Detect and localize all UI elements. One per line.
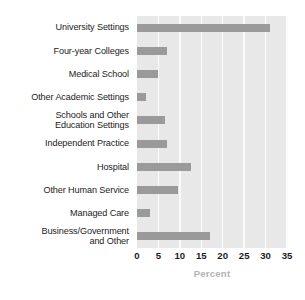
category-label: University Settings — [0, 22, 129, 32]
x-tick-label: 10 — [175, 250, 186, 261]
bar — [137, 116, 165, 124]
category-label: Medical School — [0, 69, 129, 79]
bar — [137, 140, 167, 148]
category-label: Hospital — [0, 162, 129, 172]
plot-area — [137, 16, 287, 248]
x-tick-label: 20 — [217, 250, 228, 261]
bar — [137, 70, 158, 78]
x-tick-label: 5 — [156, 250, 161, 261]
x-tick-label: 15 — [196, 250, 207, 261]
category-label: Independent Practice — [0, 138, 129, 148]
category-label: Schools and Other Education Settings — [0, 110, 129, 131]
category-label: Four-year Colleges — [0, 46, 129, 56]
bar — [137, 47, 167, 55]
x-axis-ticks: 05101520253035 — [137, 250, 287, 264]
bar — [137, 232, 210, 240]
bar — [137, 186, 178, 194]
category-label: Other Academic Settings — [0, 92, 129, 102]
bar — [137, 163, 191, 171]
category-label: Business/Government and Other — [0, 226, 129, 247]
x-tick-label: 35 — [282, 250, 293, 261]
category-label: Other Human Service — [0, 185, 129, 195]
bar — [137, 24, 270, 32]
x-axis-title: Percent — [137, 268, 287, 279]
bars-layer — [137, 16, 287, 248]
bar — [137, 209, 150, 217]
x-tick-label: 30 — [260, 250, 271, 261]
category-axis: University SettingsFour-year CollegesMed… — [0, 16, 133, 248]
x-tick-label: 0 — [134, 250, 139, 261]
x-tick-label: 25 — [239, 250, 250, 261]
bar — [137, 93, 146, 101]
horizontal-bar-chart: University SettingsFour-year CollegesMed… — [0, 0, 305, 300]
category-label: Managed Care — [0, 208, 129, 218]
